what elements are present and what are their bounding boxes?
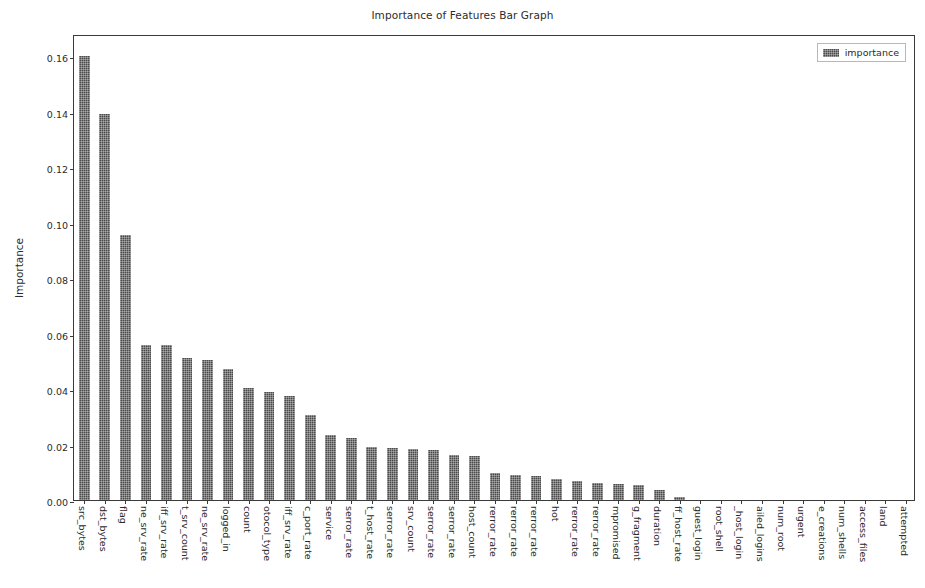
x-tick-mark [310, 500, 311, 504]
x-tick-mark [495, 500, 496, 504]
bar [531, 476, 542, 500]
y-tick-label: 0.10 [8, 219, 68, 230]
x-tick-label: t_srv_count [180, 506, 190, 561]
x-tick-mark [721, 500, 722, 504]
x-tick-mark [207, 500, 208, 504]
x-tick-mark [433, 500, 434, 504]
x-tick-mark [125, 500, 126, 504]
x-tick-mark [557, 500, 558, 504]
bar [325, 435, 336, 500]
bar [141, 345, 152, 500]
x-tick-label: _host_login [734, 506, 744, 559]
x-tick-label: attempted [899, 506, 909, 556]
x-tick-label: land [878, 506, 888, 527]
bar [202, 360, 213, 500]
x-tick-mark [474, 500, 475, 504]
x-tick-label: serror_rate [385, 506, 395, 558]
x-tick-label: rerror_rate [529, 506, 539, 557]
y-tick-label: 0.08 [8, 275, 68, 286]
y-tick-label: 0.12 [8, 164, 68, 175]
bar [99, 114, 110, 500]
x-tick-mark [598, 500, 599, 504]
y-tick-label: 0.04 [8, 386, 68, 397]
bar [592, 483, 603, 500]
bar [469, 456, 480, 500]
x-tick-mark [906, 500, 907, 504]
x-tick-label: otocol_type [262, 506, 272, 561]
y-tick-label: 0.06 [8, 330, 68, 341]
x-tick-label: t_host_rate [365, 506, 375, 559]
y-axis-label: Importance [13, 238, 25, 298]
bar [305, 415, 316, 500]
x-tick-mark [783, 500, 784, 504]
x-tick-label: duration [652, 506, 662, 546]
bar [366, 447, 377, 500]
x-tick-mark [577, 500, 578, 504]
legend-label-importance: importance [845, 47, 899, 58]
x-tick-mark [741, 500, 742, 504]
x-tick-label: count [242, 506, 252, 533]
x-tick-mark [228, 500, 229, 504]
x-tick-mark [331, 500, 332, 504]
x-tick-label: rerror_rate [591, 506, 601, 557]
x-tick-mark [844, 500, 845, 504]
x-tick-mark [166, 500, 167, 504]
x-tick-mark [413, 500, 414, 504]
x-tick-label: ne_srv_rate [200, 506, 210, 561]
figure-canvas: Importance of Features Bar Graph Importa… [0, 0, 925, 588]
chart-title: Importance of Features Bar Graph [0, 9, 925, 21]
bar [264, 392, 275, 500]
x-tick-label: root_shell [714, 506, 724, 552]
x-tick-label: rerror_rate [509, 506, 519, 557]
bar [490, 473, 501, 500]
bar [346, 438, 357, 500]
x-tick-mark [84, 500, 85, 504]
x-tick-label: ailed_logins [755, 506, 765, 562]
y-tick-label: 0.16 [8, 53, 68, 64]
plot-area: Importance 0.000.020.040.060.080.100.120… [73, 35, 915, 501]
x-tick-mark [618, 500, 619, 504]
bar [613, 484, 624, 500]
x-tick-label: service [324, 506, 334, 540]
x-tick-label: c_port_rate [303, 506, 313, 560]
x-tick-label: ne_srv_rate [139, 506, 149, 561]
x-tick-label: g_fragment [632, 506, 642, 561]
x-tick-mark [187, 500, 188, 504]
legend-swatch-importance [823, 49, 839, 57]
x-tick-mark [372, 500, 373, 504]
bar [284, 396, 295, 500]
x-tick-label: mpromised [611, 506, 621, 560]
bar [572, 481, 583, 500]
bar [654, 490, 665, 500]
x-tick-label: serror_rate [447, 506, 457, 558]
x-tick-label: src_bytes [77, 506, 87, 551]
bar [182, 358, 193, 500]
bar [387, 448, 398, 500]
x-tick-mark [516, 500, 517, 504]
x-tick-label: serror_rate [426, 506, 436, 558]
y-tick-label: 0.00 [8, 497, 68, 508]
x-tick-label: rerror_rate [488, 506, 498, 557]
x-tick-label: flag [118, 506, 128, 524]
x-tick-label: host_count [467, 506, 477, 558]
bar [408, 449, 419, 500]
x-tick-mark [290, 500, 291, 504]
legend[interactable]: importance [817, 43, 906, 62]
bar [551, 479, 562, 500]
bar [633, 485, 644, 500]
bar [243, 388, 254, 500]
bar [510, 475, 521, 500]
x-axis-labels: src_bytesdst_bytesflagne_srv_rateiff_srv… [73, 506, 915, 588]
x-tick-mark [885, 500, 886, 504]
x-tick-mark [659, 500, 660, 504]
x-tick-mark [351, 500, 352, 504]
x-tick-label: rerror_rate [570, 506, 580, 557]
x-tick-label: guest_login [693, 506, 703, 560]
x-tick-label: urgent [796, 506, 806, 537]
x-tick-label: e_creations [817, 506, 827, 560]
bar [120, 235, 131, 500]
x-tick-mark [700, 500, 701, 504]
x-tick-label: iff_srv_rate [159, 506, 169, 558]
x-tick-mark [392, 500, 393, 504]
x-tick-mark [454, 500, 455, 504]
